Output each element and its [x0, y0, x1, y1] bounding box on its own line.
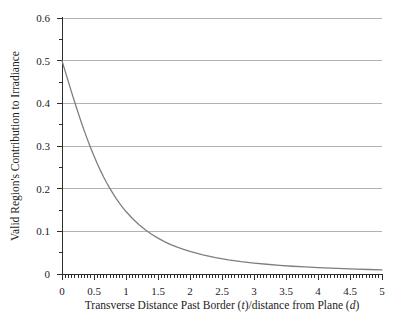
- x-tick-label: 1.5: [151, 285, 165, 297]
- x-tick-label: 0: [59, 285, 65, 297]
- x-tick-label: 3: [251, 285, 257, 297]
- y-tick-label: 0.1: [36, 225, 50, 237]
- x-axis-title-text: )/distance from Plane (: [245, 299, 350, 311]
- irradiance-line-chart: 00.511.522.533.544.5500.10.20.30.40.50.6…: [0, 0, 402, 332]
- x-tick-label: 2: [187, 285, 193, 297]
- x-axis-title-text: ): [355, 299, 359, 311]
- y-axis-title: Valid Region's Contribution to Irradianc…: [8, 18, 22, 274]
- x-tick-label: 1: [123, 285, 129, 297]
- x-tick-label: 2.5: [215, 285, 229, 297]
- x-tick-label: 0.5: [87, 285, 101, 297]
- plot-canvas: 00.511.522.533.544.5500.10.20.30.40.50.6: [0, 0, 402, 332]
- y-tick-label: 0.5: [36, 55, 50, 67]
- data-curve: [62, 61, 382, 270]
- y-tick-label: 0: [45, 268, 51, 280]
- y-tick-label: 0.6: [36, 12, 50, 24]
- x-tick-label: 4.5: [343, 285, 357, 297]
- y-tick-label: 0.2: [36, 183, 50, 195]
- x-tick-label: 3.5: [279, 285, 293, 297]
- y-tick-label: 0.3: [36, 140, 50, 152]
- x-axis-title-text: Transverse Distance Past Border (: [85, 299, 242, 311]
- y-tick-label: 0.4: [36, 97, 50, 109]
- x-tick-label: 5: [379, 285, 385, 297]
- x-axis-title: Transverse Distance Past Border (t)/dist…: [62, 299, 382, 311]
- x-tick-label: 4: [315, 285, 321, 297]
